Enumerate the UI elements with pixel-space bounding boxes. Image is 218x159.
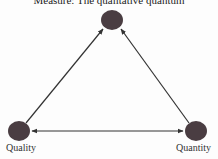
node-quality [8, 121, 30, 141]
diagram-graphic [0, 0, 218, 159]
node-quantity [185, 121, 207, 141]
triad-diagram: Measure: The qualitative quantum Quality… [0, 0, 218, 159]
edge-quality-to-measure [26, 29, 103, 123]
edge-quantity-to-measure [121, 29, 189, 123]
label-quality: Quality [6, 142, 36, 153]
node-measure [101, 10, 123, 30]
label-quantity: Quantity [176, 142, 211, 153]
